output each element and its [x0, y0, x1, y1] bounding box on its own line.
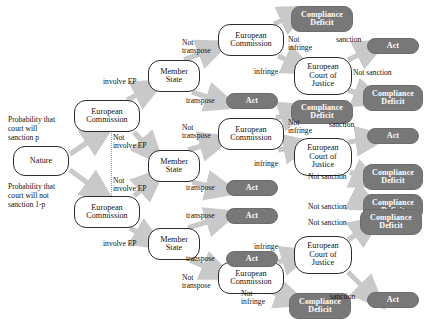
node-european-court-of-justice-3[interactable]: European Court of Justice: [294, 236, 352, 274]
label-involve-ep-2: involve EP: [103, 240, 149, 248]
terminal-act-7: Act: [367, 292, 419, 308]
node-european-court-of-justice-2[interactable]: European Court of Justice: [294, 138, 352, 176]
label-not-transpose-3: Not transpose: [182, 274, 220, 290]
label-not-transpose-2: Not transpose: [182, 124, 220, 140]
node-european-commission-bottom[interactable]: European Commission: [74, 196, 140, 228]
label-not-involve-ep-2: Not involve EP: [113, 177, 157, 193]
terminal-compliance-deficit-1: Compliance Deficit: [291, 6, 353, 32]
label-not-transpose-1: Not transpose: [182, 39, 220, 55]
terminal-act-2: Act: [226, 93, 278, 109]
label-not-infringe-3: Not infringe: [241, 290, 275, 306]
node-european-commission-2[interactable]: European Commission: [218, 118, 284, 150]
node-european-commission-top[interactable]: European Commission: [74, 100, 140, 132]
label-infringe-1: infringe: [254, 68, 288, 76]
label-infringe-3: infringe: [254, 243, 288, 251]
node-nature[interactable]: Nature: [13, 146, 69, 176]
label-sanction-3: sanction: [330, 293, 370, 301]
label-transpose-3: transpose: [186, 212, 226, 220]
label-transpose-4: transpose: [186, 255, 226, 263]
node-european-commission-1[interactable]: European Commission: [218, 24, 284, 56]
terminal-act-3: Act: [367, 128, 419, 144]
node-member-state-1[interactable]: Member State: [148, 60, 200, 92]
label-involve-ep-1: involve EP: [103, 78, 149, 86]
game-tree-diagram: Nature European Commission European Comm…: [0, 0, 427, 324]
label-sanction-2: sanction: [329, 121, 369, 129]
label-not-sanction-2: Not sanction: [308, 173, 362, 181]
label-not-infringe-1: Not infringe: [288, 36, 322, 52]
label-probability-sanction: Probability that court will sanction p: [8, 116, 80, 143]
terminal-compliance-deficit-6: Compliance Deficit: [360, 209, 422, 235]
terminal-compliance-deficit-4: Compliance Deficit: [363, 164, 423, 190]
label-infringe-2: infringe: [254, 160, 288, 168]
information-set-marker: [111, 130, 112, 196]
label-sanction-1: sanction: [336, 36, 376, 44]
label-not-sanction-3: Not sanction: [308, 203, 362, 211]
node-european-court-of-justice-1[interactable]: European Court of Justice: [294, 57, 352, 95]
terminal-act-6: Act: [226, 251, 278, 267]
label-transpose-2: transpose: [186, 184, 226, 192]
label-not-involve-ep-1: Not involve EP: [113, 134, 157, 150]
label-probability-not-sanction: Probability that court will not sanction…: [8, 183, 82, 210]
label-not-infringe-2: Not infringe: [288, 119, 322, 135]
label-not-sanction-1: Not sanction: [353, 69, 409, 77]
terminal-act-5: Act: [226, 208, 278, 224]
terminal-compliance-deficit-2: Compliance Deficit: [363, 85, 423, 111]
label-transpose-1: transpose: [186, 97, 226, 105]
terminal-act-4: Act: [226, 180, 278, 196]
label-not-sanction-4: Not sanction: [308, 219, 362, 227]
